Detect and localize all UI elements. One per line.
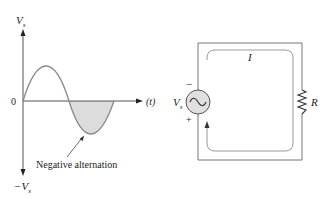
x-axis-label: (t) (146, 96, 156, 108)
resistor-icon (298, 90, 306, 114)
current-direction-arrow-icon (205, 121, 210, 128)
series-circuit: − + Vs I R (173, 43, 318, 160)
y-axis-up-arrow-icon (21, 29, 26, 36)
y-axis-top-label: Vs (16, 14, 26, 29)
source-plus-label: + (186, 114, 192, 125)
source-label: Vs (173, 96, 183, 111)
negative-alternation-label: Negative alternation (36, 159, 117, 170)
annotation-arrow (67, 138, 82, 157)
y-axis-down-arrow-icon (21, 169, 26, 176)
waveform-plot: Vs 0 (t) Negative alternation −Vs (11, 14, 156, 195)
current-loop (207, 50, 293, 151)
x-axis-arrow-icon (136, 99, 143, 104)
resistor-label: R (310, 96, 318, 108)
current-label: I (247, 51, 253, 63)
sine-wave-circuit-diagram: Vs 0 (t) Negative alternation −Vs − + Vs… (0, 0, 324, 199)
y-axis-bottom-label: −Vs (14, 180, 31, 195)
origin-label: 0 (11, 96, 16, 107)
source-minus-label: − (186, 78, 192, 90)
